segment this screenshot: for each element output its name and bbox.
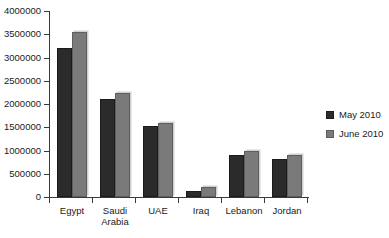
y-axis-tick-label: 3000000 [4, 53, 41, 63]
bar-saudi-arabia-june [115, 93, 130, 197]
legend: May 2010June 2010 [326, 110, 383, 148]
bar-chart: 4000000350000030000002500000200000015000… [0, 0, 389, 238]
y-axis-tick-label: 500000 [9, 169, 41, 179]
bar-saudi-arabia-may [100, 99, 115, 197]
x-axis-tick [92, 198, 93, 203]
y-axis-tick-label: 1000000 [4, 146, 41, 156]
legend-item: June 2010 [326, 129, 383, 139]
bar-lebanon-may [229, 155, 244, 197]
x-axis-tick [178, 198, 179, 203]
x-axis-line [49, 197, 309, 198]
x-axis-tick [135, 198, 136, 203]
y-axis-tick-label: 2000000 [4, 99, 41, 109]
bar-uae-june [158, 123, 173, 197]
legend-swatch-icon [326, 111, 334, 119]
legend-item: May 2010 [326, 110, 383, 120]
bar-jordan-june [287, 155, 302, 197]
legend-swatch-icon [326, 130, 334, 138]
legend-label: May 2010 [339, 110, 381, 120]
y-axis-tick [44, 34, 49, 35]
legend-label: June 2010 [339, 129, 383, 139]
x-axis-tick [307, 198, 308, 203]
bar-egypt-may [57, 48, 72, 197]
bar-jordan-may [272, 159, 287, 197]
x-axis-tick [264, 198, 265, 203]
x-axis-tick [221, 198, 222, 203]
y-axis-tick-label: 4000000 [4, 6, 41, 16]
y-axis-line [49, 11, 50, 198]
bar-lebanon-june [244, 151, 259, 197]
x-axis-tick [49, 198, 50, 203]
y-axis-tick-label: 0 [36, 192, 41, 202]
x-axis-category-label: Jordan [257, 205, 317, 216]
y-axis-tick [44, 81, 49, 82]
y-axis-tick-label: 2500000 [4, 76, 41, 86]
y-axis-tick [44, 58, 49, 59]
bar-iraq-june [201, 187, 216, 197]
bar-iraq-may [186, 191, 201, 197]
bar-uae-may [143, 126, 158, 197]
y-axis-tick-label: 1500000 [4, 122, 41, 132]
y-axis-tick [44, 104, 49, 105]
y-axis-tick [44, 127, 49, 128]
y-axis-tick-label: 3500000 [4, 29, 41, 39]
y-axis-tick [44, 174, 49, 175]
y-axis-tick [44, 11, 49, 12]
bar-egypt-june [72, 32, 87, 197]
y-axis-tick [44, 151, 49, 152]
